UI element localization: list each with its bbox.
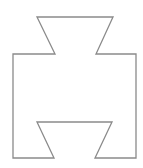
notched-shape-outline bbox=[13, 17, 136, 158]
diagram-canvas bbox=[0, 0, 143, 168]
